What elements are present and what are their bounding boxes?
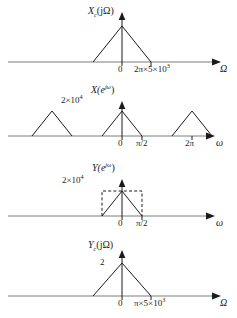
y-axis-arrow-icon — [119, 179, 126, 187]
y-axis-arrow-icon — [119, 12, 126, 20]
panel-4-function-label: Yc(jΩ) — [88, 240, 113, 250]
spectrum-triangle-replica-left — [32, 111, 72, 136]
panel-2-peak-label: 2×104 — [61, 96, 83, 105]
panel-3-peak-main: 2×10 — [62, 175, 81, 185]
panel-1-tick-zero-label: 0 — [118, 65, 123, 74]
panel-3-fn-rest: ) — [111, 162, 114, 173]
panel-2-tick-halfpi-label: π/2 — [136, 139, 148, 148]
panel-xc-spectrum: Xc(jΩ) 0 2π×5×103 Ω — [0, 0, 237, 80]
panel-2-fn-rest: ) — [111, 84, 114, 95]
panel-1-tick-cutoff-label: 2π×5×103 — [134, 65, 170, 74]
panel-2-x-axis-label: ω — [216, 138, 223, 148]
panel-2-tick-zero-label: 0 — [118, 139, 123, 148]
panel-1-tick-cutoff-exp: 3 — [167, 62, 170, 69]
panel-4-tick-cutoff-label: π×5×103 — [134, 299, 165, 308]
panel-2-function-label: X(ejω) — [91, 85, 114, 95]
y-axis-arrow-icon — [119, 101, 126, 109]
panel-3-peak-label: 2×104 — [62, 176, 84, 185]
panel-3-fn-main: Y(e — [92, 162, 105, 173]
panel-4-x-axis-label: Ω — [220, 298, 227, 308]
y-axis-arrow-icon — [119, 250, 126, 258]
panel-1-tick-cutoff-main: 2π×5×10 — [134, 64, 167, 74]
panel-x-dtft-spectrum: X(ejω) 2×104 0 π/2 2π ω — [0, 80, 237, 158]
panel-yc-spectrum: Yc(jΩ) 2 0 π×5×103 Ω — [0, 238, 237, 318]
panel-4-peak-label: 2 — [100, 258, 105, 267]
panel-3-function-label: Y(ejω) — [92, 163, 115, 173]
panel-4-tick-cutoff-main: π×5×10 — [134, 298, 162, 308]
figure-container: Xc(jΩ) 0 2π×5×103 Ω X(ejω) 2×104 0 π/2 2… — [0, 0, 237, 318]
panel-y-dtft-spectrum: Y(ejω) 2×104 0 π/2 ω — [0, 158, 237, 238]
panel-1-fn-rest: (jΩ) — [97, 5, 114, 16]
panel-3-peak-exp: 4 — [81, 173, 84, 180]
x-axis-arrow-icon — [206, 213, 215, 220]
panel-3-tick-zero-label: 0 — [118, 219, 123, 228]
panel-2-fn-main: X(e — [91, 84, 105, 95]
spectrum-triangle-replica-right — [172, 111, 212, 136]
panel-3-tick-halfpi-label: π/2 — [136, 219, 148, 228]
panel-3-x-axis-label: ω — [216, 218, 223, 228]
panel-2-tick-twopi-label: 2π — [185, 139, 194, 148]
panel-2-peak-main: 2×10 — [61, 95, 80, 105]
panel-4-tick-zero-label: 0 — [118, 299, 123, 308]
panel-1-x-axis-label: Ω — [220, 64, 227, 74]
panel-1-function-label: Xc(jΩ) — [88, 6, 114, 16]
panel-2-peak-exp: 4 — [80, 93, 83, 100]
panel-4-tick-cutoff-exp: 3 — [162, 296, 165, 303]
panel-4-fn-rest: (jΩ) — [96, 239, 113, 250]
